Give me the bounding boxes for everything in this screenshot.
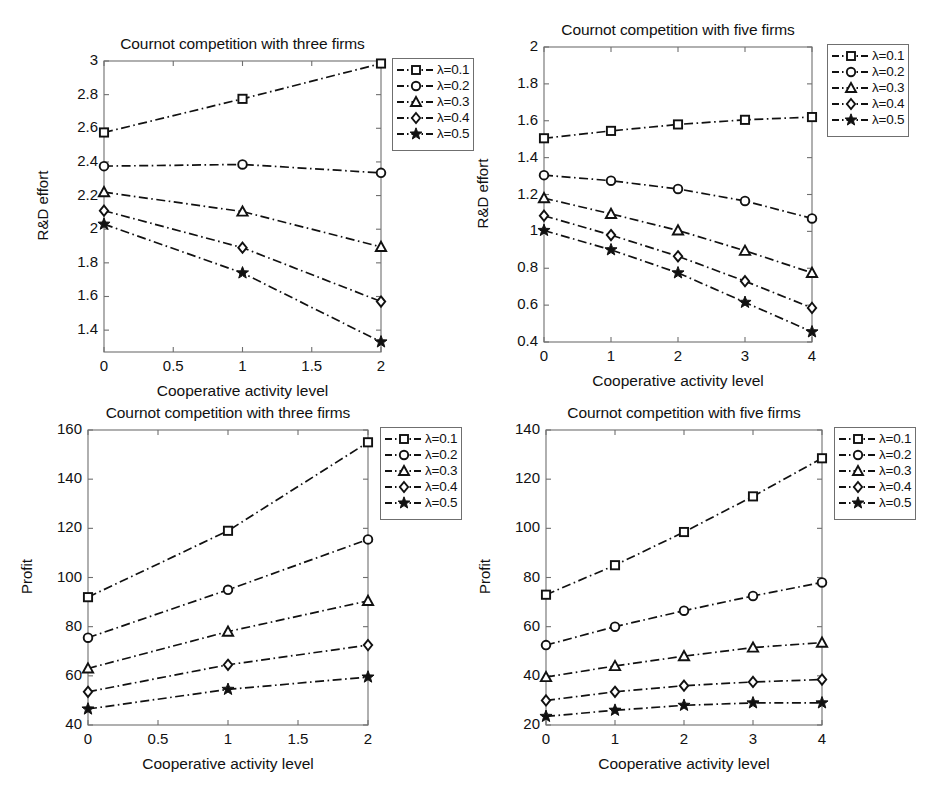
y-axis-label: R&D effort bbox=[474, 113, 491, 273]
data-point-marker-triangle bbox=[223, 626, 233, 635]
data-point-marker-square bbox=[674, 120, 682, 128]
data-point-marker-diamond bbox=[674, 251, 682, 261]
legend-item-λ=0.3[interactable]: λ=0.3 bbox=[838, 463, 911, 479]
legend-label: λ=0.3 bbox=[871, 80, 904, 96]
chart-legend: λ=0.1λ=0.2λ=0.3λ=0.4λ=0.5 bbox=[380, 427, 462, 520]
y-tick-label: 1.8 bbox=[492, 74, 538, 91]
legend-item-λ=0.5[interactable]: λ=0.5 bbox=[396, 126, 469, 142]
data-point-marker-star bbox=[672, 267, 684, 279]
y-axis-label: Profit bbox=[476, 496, 493, 656]
data-point-marker-circle bbox=[808, 214, 817, 223]
legend-label: λ=0.1 bbox=[424, 431, 457, 447]
data-point-marker-triangle bbox=[817, 638, 827, 647]
x-axis-label: Cooperative activity level bbox=[48, 755, 408, 773]
legend-item-λ=0.5[interactable]: λ=0.5 bbox=[831, 112, 904, 128]
chart-legend: λ=0.1λ=0.2λ=0.3λ=0.4λ=0.5 bbox=[834, 427, 916, 520]
chart-panel-bottom-left: Cournot competition with three firms4060… bbox=[14, 410, 469, 798]
data-point-marker-star bbox=[236, 267, 248, 278]
data-point-marker-circle bbox=[238, 160, 247, 169]
y-tick-label: 1.2 bbox=[492, 185, 538, 202]
data-point-marker-triangle bbox=[237, 206, 247, 215]
data-point-marker-circle bbox=[84, 633, 93, 642]
series-line-λ=0.5 bbox=[544, 230, 812, 331]
legend-item-λ=0.4[interactable]: λ=0.4 bbox=[384, 479, 457, 495]
x-tick-label: 3 bbox=[720, 347, 770, 364]
y-tick-label: 2 bbox=[492, 37, 538, 54]
legend-item-λ=0.2[interactable]: λ=0.2 bbox=[838, 447, 911, 463]
chart-panel-top-left: Cournot competition with three firms1.41… bbox=[14, 14, 469, 402]
x-tick-label: 1 bbox=[586, 347, 636, 364]
data-point-marker-diamond bbox=[84, 687, 92, 697]
legend-item-λ=0.4[interactable]: λ=0.4 bbox=[396, 110, 469, 126]
y-tick-label: 2.2 bbox=[52, 186, 98, 203]
x-tick-label: 3 bbox=[728, 730, 778, 747]
data-point-marker-triangle bbox=[83, 663, 93, 672]
legend-label: λ=0.4 bbox=[878, 479, 911, 495]
legend-label: λ=0.1 bbox=[878, 431, 911, 447]
legend-item-λ=0.2[interactable]: λ=0.2 bbox=[396, 78, 469, 94]
data-point-marker-diamond bbox=[100, 206, 108, 216]
data-point-marker-star bbox=[222, 683, 234, 695]
legend-item-λ=0.1[interactable]: λ=0.1 bbox=[384, 431, 457, 447]
data-point-marker-diamond bbox=[749, 677, 757, 687]
legend-item-λ=0.5[interactable]: λ=0.5 bbox=[838, 495, 911, 511]
x-tick-label: 1 bbox=[590, 730, 640, 747]
data-point-marker-circle bbox=[741, 197, 750, 206]
legend-item-λ=0.1[interactable]: λ=0.1 bbox=[396, 62, 469, 78]
legend-item-λ=0.3[interactable]: λ=0.3 bbox=[384, 463, 457, 479]
legend-marker-square-icon bbox=[384, 431, 424, 447]
legend-label: λ=0.2 bbox=[436, 78, 469, 94]
legend-marker-triangle-icon bbox=[384, 463, 424, 479]
data-point-marker-triangle bbox=[740, 246, 750, 255]
legend-marker-diamond-icon bbox=[831, 96, 871, 112]
data-point-marker-square bbox=[377, 59, 385, 67]
legend-item-λ=0.3[interactable]: λ=0.3 bbox=[831, 80, 904, 96]
legend-item-λ=0.2[interactable]: λ=0.2 bbox=[384, 447, 457, 463]
legend-marker-diamond-icon bbox=[838, 479, 878, 495]
legend-item-λ=0.1[interactable]: λ=0.1 bbox=[831, 48, 904, 64]
data-point-marker-diamond bbox=[542, 695, 550, 705]
y-tick-label: 0.8 bbox=[492, 258, 538, 275]
y-tick-label: 60 bbox=[494, 617, 540, 634]
x-tick-label: 1.5 bbox=[273, 730, 323, 747]
data-point-marker-circle bbox=[377, 169, 386, 178]
legend-item-λ=0.4[interactable]: λ=0.4 bbox=[831, 96, 904, 112]
series-line-λ=0.1 bbox=[546, 458, 822, 594]
data-point-marker-star bbox=[678, 699, 690, 710]
x-axis-label: Cooperative activity level bbox=[506, 755, 862, 773]
data-point-marker-square bbox=[542, 591, 550, 599]
x-tick-label: 0 bbox=[63, 730, 113, 747]
legend-item-λ=0.1[interactable]: λ=0.1 bbox=[838, 431, 911, 447]
data-point-marker-square bbox=[100, 128, 108, 136]
data-point-marker-diamond bbox=[238, 243, 246, 253]
data-point-marker-diamond bbox=[611, 687, 619, 697]
data-point-marker-circle bbox=[364, 535, 373, 544]
legend-label: λ=0.5 bbox=[424, 495, 457, 511]
y-tick-label: 100 bbox=[494, 518, 540, 535]
data-point-marker-square bbox=[680, 528, 688, 536]
y-tick-label: 140 bbox=[36, 469, 82, 486]
data-point-marker-circle bbox=[540, 171, 549, 180]
x-tick-label: 0 bbox=[519, 347, 569, 364]
y-tick-label: 100 bbox=[36, 568, 82, 585]
data-point-marker-triangle bbox=[748, 642, 758, 651]
x-tick-label: 2 bbox=[343, 730, 393, 747]
series-line-λ=0.2 bbox=[544, 175, 812, 218]
chart-legend: λ=0.1λ=0.2λ=0.3λ=0.4λ=0.5 bbox=[392, 58, 474, 151]
x-tick-label: 0.5 bbox=[133, 730, 183, 747]
data-point-marker-star bbox=[609, 704, 621, 716]
legend-marker-star-icon bbox=[831, 112, 871, 128]
chart-panel-bottom-right: Cournot competition with five firms20406… bbox=[479, 410, 934, 798]
legend-marker-square-icon bbox=[831, 48, 871, 64]
data-point-marker-triangle bbox=[606, 209, 616, 218]
legend-label: λ=0.1 bbox=[871, 48, 904, 64]
chart-panel-top-right: Cournot competition with five firms0.40.… bbox=[479, 14, 934, 402]
legend-item-λ=0.3[interactable]: λ=0.3 bbox=[396, 94, 469, 110]
legend-label: λ=0.2 bbox=[871, 64, 904, 80]
x-tick-label: 1 bbox=[218, 357, 268, 374]
x-tick-label: 2 bbox=[356, 357, 406, 374]
legend-item-λ=0.5[interactable]: λ=0.5 bbox=[384, 495, 457, 511]
legend-item-λ=0.2[interactable]: λ=0.2 bbox=[831, 64, 904, 80]
data-point-marker-circle bbox=[224, 585, 233, 594]
legend-item-λ=0.4[interactable]: λ=0.4 bbox=[838, 479, 911, 495]
